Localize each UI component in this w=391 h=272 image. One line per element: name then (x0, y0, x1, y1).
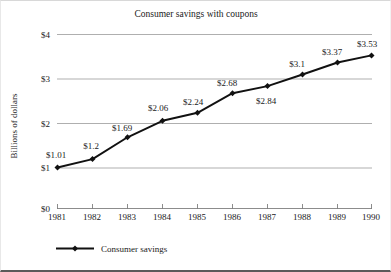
chart-legend[interactable]: Consumer savings (56, 244, 168, 254)
data-label-1982: $1.2 (83, 141, 99, 151)
data-label-1985: $2.24 (183, 97, 204, 107)
x-tick-label-1981: 1981 (48, 212, 66, 222)
y-tick-label-1: $1 (41, 163, 50, 173)
data-label-1981: $1.01 (46, 150, 66, 160)
y-tick-label-3: $3 (41, 74, 51, 84)
x-tick-label-1984: 1984 (153, 212, 172, 222)
data-label-1983: $1.69 (112, 123, 133, 133)
data-point-1990 (369, 52, 375, 58)
legend-label-consumer-savings: Consumer savings (101, 244, 168, 254)
chart-title: Consumer savings with coupons (134, 9, 258, 19)
legend-marker-swatch (72, 246, 78, 252)
x-axis (57, 204, 372, 209)
consumer-savings-line (58, 55, 372, 167)
x-axis-tick-labels: 1981 1982 1983 1984 1985 1986 1987 1988 … (48, 212, 381, 222)
y-tick-label-4: $4 (41, 30, 51, 40)
data-point-1988 (300, 72, 306, 78)
chart-page: Consumer savings with coupons Billions o… (0, 0, 391, 272)
data-point-1984 (160, 118, 166, 124)
y-tick-label-2: $2 (41, 119, 50, 129)
data-label-1984: $2.06 (148, 103, 169, 113)
x-tick-label-1982: 1982 (83, 212, 101, 222)
x-tick-label-1983: 1983 (118, 212, 137, 222)
data-label-1989: $3.37 (322, 47, 343, 57)
x-tick-label-1986: 1986 (223, 212, 242, 222)
consumer-savings-line-chart: Consumer savings with coupons Billions o… (1, 1, 391, 272)
data-point-labels: $1.01 $1.2 $1.69 $2.06 $2.24 $2.68 $2.84… (46, 39, 378, 160)
y-axis-label: Billions of dollars (9, 93, 19, 158)
x-tick-label-1988: 1988 (293, 212, 312, 222)
data-point-1981 (55, 165, 61, 171)
x-tick-label-1987: 1987 (258, 212, 277, 222)
data-point-1989 (335, 60, 341, 66)
data-label-1990: $3.53 (357, 39, 378, 49)
x-tick-label-1989: 1989 (328, 212, 347, 222)
data-point-1987 (265, 83, 271, 89)
data-label-1988: $3.1 (289, 59, 305, 69)
data-label-1986: $2.68 (217, 78, 238, 88)
x-tick-label-1990: 1990 (362, 212, 381, 222)
data-label-1987: $2.84 (256, 96, 277, 106)
x-tick-label-1985: 1985 (188, 212, 207, 222)
y-axis-tick-labels: $4 $3 $2 $1 $0 (41, 30, 51, 214)
